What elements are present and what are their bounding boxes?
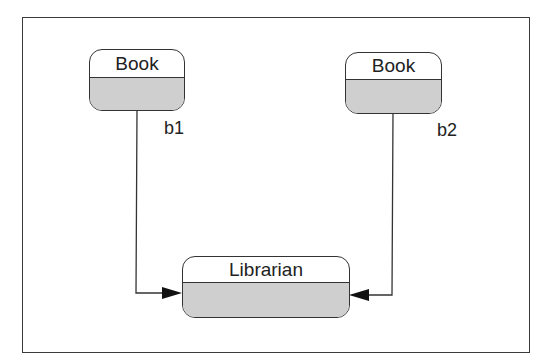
arrowhead-left-icon [162,287,182,299]
object-attributes-compartment [183,283,349,318]
arrowhead-right-icon [349,289,369,301]
object-name: Book [346,53,441,80]
object-book-b1[interactable]: Book [89,49,185,111]
object-attributes-compartment [90,78,184,111]
object-attributes-compartment [346,80,441,114]
role-label-b2: b2 [437,120,457,141]
link-b2-librarian [366,113,393,295]
object-name: Book [90,50,184,78]
diagram-canvas: Book b1 Book b2 Librarian [0,0,549,364]
role-label-b1: b1 [164,118,184,139]
object-book-b2[interactable]: Book [345,52,442,114]
object-name: Librarian [183,257,349,283]
object-librarian[interactable]: Librarian [182,256,350,318]
link-b1-librarian [136,110,165,293]
